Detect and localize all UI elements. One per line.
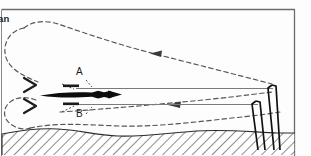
diagram-canvas — [0, 0, 311, 156]
dashed-circulation-upper — [5, 22, 272, 84]
diagram-figure: an A B — [0, 0, 311, 156]
chevron-arrow-upper — [24, 78, 36, 92]
hatched-ground-layer — [2, 129, 295, 156]
chevron-arrow-lower — [24, 99, 36, 113]
dashed-arrow-left-upper — [150, 51, 162, 58]
level-label-b: B — [76, 109, 83, 119]
dashed-seabed-contour — [30, 112, 280, 128]
vessel-silhouette — [40, 91, 122, 99]
level-label-a: A — [76, 67, 83, 77]
tick-marks-a — [62, 80, 92, 89]
dashed-circulation-lower — [5, 92, 272, 129]
page-title: an — [0, 14, 9, 24]
